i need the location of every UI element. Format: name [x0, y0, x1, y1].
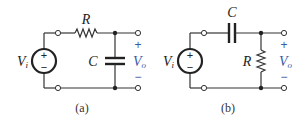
terminal: [281, 85, 286, 90]
resistor-icon: [257, 50, 265, 72]
terminal: [281, 30, 286, 35]
resistor-icon: [75, 29, 97, 37]
circuit-figure: + − Vi R C + Vo − (a): [0, 0, 305, 124]
resistor-label: R: [242, 54, 252, 69]
source-plus: +: [41, 49, 47, 61]
caption-a: (a): [75, 101, 88, 115]
source-minus: −: [41, 61, 47, 73]
terminal: [55, 30, 60, 35]
source-plus: +: [187, 49, 193, 61]
node-dot: [113, 86, 117, 90]
node-dot: [259, 31, 263, 35]
node-dot: [113, 31, 117, 35]
capacitor-label: C: [88, 54, 98, 69]
source-label: Vi: [17, 54, 29, 70]
resistor-label: R: [81, 12, 91, 27]
node-dot: [259, 86, 263, 90]
output-minus: −: [134, 70, 141, 84]
terminal: [55, 85, 60, 90]
circuit-b: + − Vi C R + Vo − (b): [163, 5, 293, 115]
output-plus: +: [280, 38, 287, 52]
circuit-a: + − Vi R C + Vo − (a): [17, 12, 147, 115]
output-label: Vo: [133, 54, 147, 70]
capacitor-label: C: [227, 5, 237, 20]
source-minus: −: [187, 61, 193, 73]
output-plus: +: [134, 38, 141, 52]
source-label: Vi: [163, 54, 175, 70]
output-label: Vo: [279, 54, 293, 70]
terminal: [135, 85, 140, 90]
terminal: [135, 30, 140, 35]
terminal: [201, 30, 206, 35]
caption-b: (b): [221, 101, 235, 115]
output-minus: −: [280, 70, 287, 84]
terminal: [201, 85, 206, 90]
